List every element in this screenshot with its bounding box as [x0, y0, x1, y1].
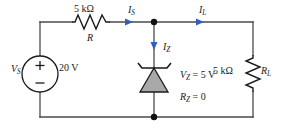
zener-resistance-label: RZ = 0 — [180, 92, 206, 104]
current-arrow-iz — [151, 42, 158, 50]
series-resistor-name-label: R — [87, 33, 93, 43]
source-name-label: VS — [11, 64, 21, 76]
current-is-label: IS — [128, 5, 135, 17]
source-value-label: 20 V — [59, 63, 79, 73]
load-resistor-value-label: 5 kΩ — [213, 66, 233, 76]
circuit-schematic-svg — [0, 0, 282, 137]
node-bottom — [151, 114, 157, 120]
current-arrow-il — [196, 19, 204, 26]
load-resistor-name-label: RL — [261, 66, 271, 78]
current-il-label: IL — [199, 5, 206, 17]
voltage-source-symbol — [22, 56, 58, 92]
zener-diode-symbol — [138, 63, 171, 92]
current-iz-label: IZ — [163, 42, 170, 54]
node-top — [151, 19, 157, 25]
diode-triangle — [140, 68, 168, 92]
load-resistor-symbol — [246, 55, 260, 92]
current-arrow-is — [125, 19, 133, 26]
series-resistor-symbol — [72, 15, 110, 29]
zener-regulator-circuit-figure: 5 kΩ R IS IL IZ VS 20 V VZ = 5 V RZ = 0 … — [0, 0, 282, 137]
zener-voltage-label: VZ = 5 V — [180, 70, 215, 82]
series-resistor-value-label: 5 kΩ — [74, 4, 94, 14]
